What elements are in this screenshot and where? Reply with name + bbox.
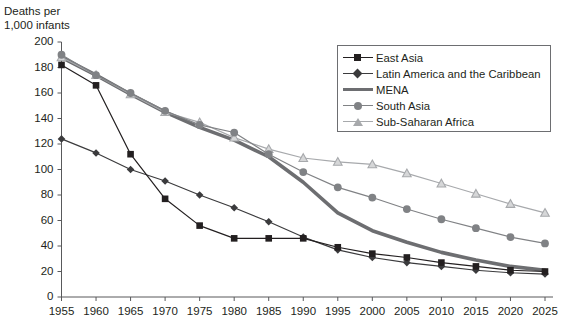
data-point-south-asia (196, 121, 204, 129)
data-point-east-asia (542, 268, 549, 275)
data-point-south-asia (161, 107, 169, 115)
y-axis-tick-label: 200 (20, 35, 54, 47)
legend-label: East Asia (373, 52, 423, 64)
data-point-south-asia (334, 183, 342, 191)
data-point-east-asia (404, 254, 411, 261)
y-axis-tick-label: 180 (20, 61, 54, 73)
legend-item-south-asia: South Asia (343, 98, 544, 114)
y-axis-tick-label: 20 (20, 265, 54, 277)
legend-item-mena: MENA (343, 82, 544, 98)
data-point-east-asia (231, 235, 238, 242)
data-point-east-asia (473, 263, 480, 270)
y-axis-tick-label: 140 (20, 112, 54, 124)
data-point-east-asia (334, 244, 341, 251)
data-point-east-asia (127, 151, 134, 158)
data-point-south-asia (472, 224, 480, 232)
x-axis-tick-label: 2025 (525, 305, 562, 317)
data-point-south-asia (507, 233, 515, 241)
chart-legend: East AsiaLatin America and the Caribbean… (337, 45, 551, 132)
legend-label: Latin America and the Caribbean (373, 68, 541, 80)
data-point-latin-america-and-the-caribbean (127, 166, 135, 174)
data-point-south-asia (368, 194, 376, 202)
data-point-east-asia (93, 82, 100, 89)
square-marker (343, 51, 373, 65)
data-point-latin-america-and-the-caribbean (196, 191, 204, 199)
legend-label: South Asia (373, 100, 430, 112)
y-axis-tick-label: 100 (20, 163, 54, 175)
legend-item-latin-america-and-the-caribbean: Latin America and the Caribbean (343, 66, 544, 82)
data-point-south-asia (265, 150, 273, 158)
y-axis-tick-label: 0 (20, 290, 54, 302)
data-point-south-asia (437, 215, 445, 223)
legend-label: MENA (373, 84, 409, 96)
legend-item-sub-saharan-africa: Sub-Saharan Africa (343, 114, 544, 130)
data-point-latin-america-and-the-caribbean (230, 204, 238, 212)
data-point-south-asia (92, 71, 100, 79)
data-point-east-asia (265, 235, 272, 242)
data-point-east-asia (162, 196, 169, 203)
y-axis-tick-label: 80 (20, 188, 54, 200)
data-point-south-asia (299, 168, 307, 176)
y-axis-tick-label: 40 (20, 239, 54, 251)
y-axis-tick-label: 60 (20, 214, 54, 226)
data-point-south-asia (541, 240, 549, 248)
data-point-south-asia (230, 129, 238, 137)
data-point-south-asia (58, 51, 66, 59)
data-point-latin-america-and-the-caribbean (92, 149, 100, 157)
y-axis-tick-label: 160 (20, 86, 54, 98)
data-point-east-asia (300, 235, 307, 242)
data-point-east-asia (438, 259, 445, 266)
data-point-east-asia (369, 250, 376, 257)
legend-label: Sub-Saharan Africa (373, 116, 474, 128)
legend-item-east-asia: East Asia (343, 50, 544, 66)
circle-marker (343, 99, 373, 113)
thick-line-marker (343, 83, 373, 97)
data-point-south-asia (127, 89, 135, 97)
data-point-east-asia (507, 267, 514, 274)
data-point-east-asia (196, 222, 203, 229)
data-point-east-asia (58, 62, 65, 69)
triangle-marker (343, 115, 373, 129)
data-point-latin-america-and-the-caribbean (161, 177, 169, 185)
data-point-latin-america-and-the-caribbean (58, 135, 66, 143)
chart-container: Deaths per 1,000 infants 200180160140120… (0, 0, 562, 331)
y-axis-tick-label: 120 (20, 137, 54, 149)
data-point-latin-america-and-the-caribbean (265, 218, 273, 226)
diamond-marker (343, 67, 373, 81)
data-point-south-asia (403, 205, 411, 213)
